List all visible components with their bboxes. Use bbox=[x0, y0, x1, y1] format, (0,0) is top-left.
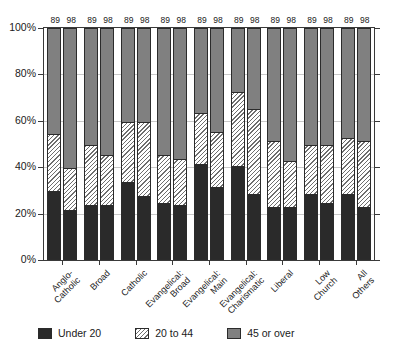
y-axis-tick bbox=[38, 214, 43, 215]
bar-89[interactable]: 89 bbox=[47, 28, 61, 260]
bar-segment-20-to-44 bbox=[321, 146, 333, 204]
bar-group: 8998 bbox=[267, 28, 297, 260]
y-axis-tick bbox=[38, 167, 43, 168]
bar-segment-under-20 bbox=[48, 192, 60, 259]
bar-segment-20-to-44 bbox=[268, 142, 280, 209]
bar-89[interactable]: 89 bbox=[304, 28, 318, 260]
bar-year-label: 98 bbox=[354, 15, 376, 25]
bar-year-label: 98 bbox=[134, 15, 156, 25]
bar-segment-under-20 bbox=[158, 204, 170, 259]
bar-98[interactable]: 98 bbox=[173, 28, 187, 260]
bar-segment-45-or-over bbox=[321, 29, 333, 146]
bar-89[interactable]: 89 bbox=[157, 28, 171, 260]
bar-98[interactable]: 98 bbox=[63, 28, 77, 260]
bar-98[interactable]: 98 bbox=[283, 28, 297, 260]
y-axis-tick-label: 40% bbox=[2, 160, 36, 172]
segment-divider bbox=[122, 122, 134, 123]
segment-divider bbox=[305, 145, 317, 146]
segment-divider bbox=[358, 207, 370, 208]
segment-divider bbox=[48, 134, 60, 135]
bar-segment-under-20 bbox=[122, 183, 134, 259]
bar-segment-under-20 bbox=[305, 195, 317, 259]
bar-segment-45-or-over bbox=[138, 29, 150, 123]
bar-98[interactable]: 98 bbox=[100, 28, 114, 260]
legend-swatch-icon bbox=[135, 328, 149, 339]
y-axis-tick-label: 0% bbox=[2, 253, 36, 265]
x-axis-tick bbox=[246, 260, 247, 265]
bar-89[interactable]: 89 bbox=[341, 28, 355, 260]
legend-label: Under 20 bbox=[58, 327, 101, 339]
bar-year-label: 98 bbox=[97, 15, 119, 25]
segment-divider bbox=[85, 205, 97, 206]
segment-divider bbox=[268, 141, 280, 142]
segment-divider bbox=[268, 207, 280, 208]
bar-segment-45-or-over bbox=[174, 29, 186, 160]
y-axis-tick-label: 80% bbox=[2, 67, 36, 79]
segment-divider bbox=[85, 145, 97, 146]
bar-89[interactable]: 89 bbox=[84, 28, 98, 260]
legend-item[interactable]: 20 to 44 bbox=[135, 327, 193, 339]
bar-year-label: 98 bbox=[60, 15, 82, 25]
bar-group: 8998 bbox=[231, 28, 261, 260]
plot-area: 899889988998899889988998899889988998 bbox=[44, 28, 374, 260]
bar-98[interactable]: 98 bbox=[210, 28, 224, 260]
bar-89[interactable]: 89 bbox=[231, 28, 245, 260]
bar-89[interactable]: 89 bbox=[121, 28, 135, 260]
bar-year-label: 98 bbox=[207, 15, 229, 25]
x-axis-tick bbox=[136, 260, 137, 265]
y-axis-tick bbox=[38, 260, 43, 261]
bar-segment-under-20 bbox=[342, 195, 354, 259]
y-axis-tick bbox=[38, 74, 43, 75]
bar-segment-20-to-44 bbox=[358, 142, 370, 209]
segment-divider bbox=[305, 194, 317, 195]
bar-segment-45-or-over bbox=[101, 29, 113, 156]
legend-item[interactable]: 45 or over bbox=[227, 327, 294, 339]
segment-divider bbox=[342, 194, 354, 195]
x-axis-tick bbox=[356, 260, 357, 265]
bar-segment-45-or-over bbox=[64, 29, 76, 169]
bar-segment-20-to-44 bbox=[284, 162, 296, 208]
bar-group: 8998 bbox=[341, 28, 371, 260]
segment-divider bbox=[232, 92, 244, 93]
bar-segment-under-20 bbox=[174, 206, 186, 259]
segment-divider bbox=[321, 145, 333, 146]
bar-89[interactable]: 89 bbox=[194, 28, 208, 260]
legend-item[interactable]: Under 20 bbox=[38, 327, 101, 339]
bar-segment-45-or-over bbox=[48, 29, 60, 135]
bar-year-label: 98 bbox=[244, 15, 266, 25]
segment-divider bbox=[211, 187, 223, 188]
bar-98[interactable]: 98 bbox=[357, 28, 371, 260]
segment-divider bbox=[232, 166, 244, 167]
bar-98[interactable]: 98 bbox=[320, 28, 334, 260]
segment-divider bbox=[101, 205, 113, 206]
bar-segment-20-to-44 bbox=[211, 133, 223, 188]
segment-divider bbox=[158, 155, 170, 156]
segment-divider bbox=[211, 132, 223, 133]
bar-89[interactable]: 89 bbox=[267, 28, 281, 260]
y-axis-tick-right bbox=[375, 121, 380, 122]
x-axis-tick bbox=[62, 260, 63, 265]
bar-segment-20-to-44 bbox=[342, 139, 354, 194]
bar-segment-20-to-44 bbox=[305, 146, 317, 194]
y-axis-tick-right bbox=[375, 214, 380, 215]
bar-98[interactable]: 98 bbox=[137, 28, 151, 260]
bar-year-label: 98 bbox=[317, 15, 339, 25]
segment-divider bbox=[248, 109, 260, 110]
stacked-bar-chart: 0%20%40%60%80%100% 899889988998899889988… bbox=[0, 0, 403, 350]
bar-segment-under-20 bbox=[138, 197, 150, 259]
segment-divider bbox=[138, 122, 150, 123]
bar-segment-20-to-44 bbox=[122, 123, 134, 183]
bar-segment-45-or-over bbox=[195, 29, 207, 114]
segment-divider bbox=[284, 161, 296, 162]
legend-swatch-icon bbox=[227, 328, 241, 339]
bar-segment-under-20 bbox=[321, 204, 333, 259]
y-axis-tick-right bbox=[375, 167, 380, 168]
y-axis-tick-right bbox=[375, 260, 380, 261]
y-axis-tick bbox=[38, 28, 43, 29]
y-axis-line-right bbox=[374, 27, 375, 261]
bar-98[interactable]: 98 bbox=[247, 28, 261, 260]
bar-segment-20-to-44 bbox=[174, 160, 186, 206]
bar-segment-under-20 bbox=[101, 206, 113, 259]
segment-divider bbox=[321, 203, 333, 204]
bar-segment-45-or-over bbox=[85, 29, 97, 146]
